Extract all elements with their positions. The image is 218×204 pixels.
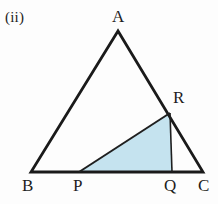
vertex-label-q: Q <box>164 177 176 194</box>
figure-canvas <box>0 0 218 204</box>
vertex-label-c: C <box>198 177 209 194</box>
part-label: (ii) <box>5 10 24 25</box>
geometry-figure: (ii) A R B P Q C <box>0 0 218 204</box>
vertex-label-b: B <box>22 177 33 194</box>
vertex-label-a: A <box>112 8 124 25</box>
vertex-label-p: P <box>73 177 82 194</box>
vertex-label-r: R <box>173 89 184 106</box>
